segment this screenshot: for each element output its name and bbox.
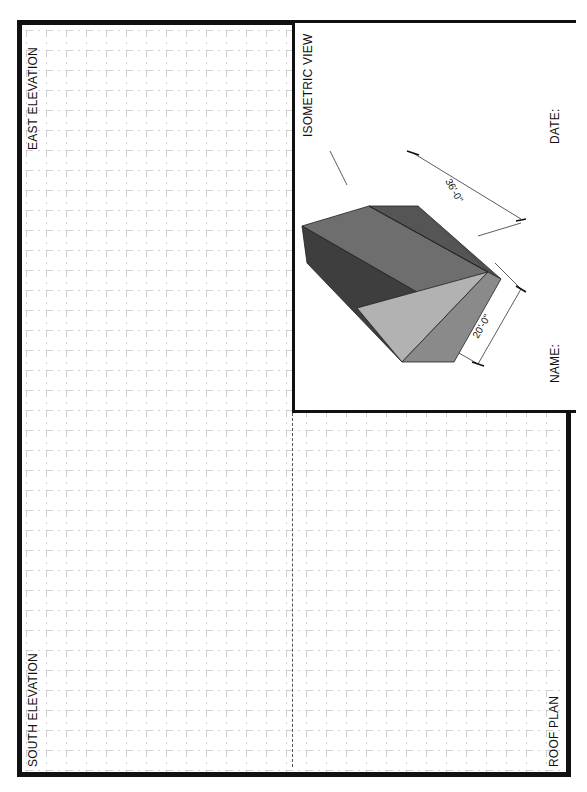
roof-plan-label: ROOF PLAN [547,696,561,767]
east-elevation-label: EAST ELEVATION [26,47,40,150]
isometric-drawing: 36'-0" 20'-0" [295,23,540,410]
date-field-label: DATE: [548,109,562,144]
isometric-view-panel: 36'-0" 20'-0" ISOMETRIC VIEW [292,20,543,413]
drawing-sheet: 36'-0" 20'-0" ISOMETRIC VIEW NAME: DATE:… [17,20,571,777]
name-date-strip: NAME: DATE: [540,20,576,413]
name-field-label: NAME: [548,344,562,383]
panel-divider-vertical [292,413,293,767]
length-dimension-label: 36'-0" [443,177,465,205]
south-elevation-label: SOUTH ELEVATION [26,653,40,767]
isometric-view-label: ISOMETRIC VIEW [301,34,315,137]
